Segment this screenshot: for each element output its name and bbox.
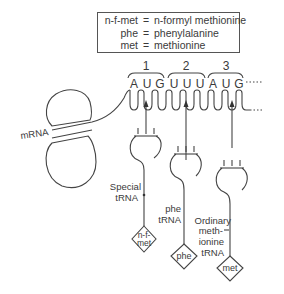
special-trna-label-1: Special — [110, 181, 141, 192]
ribosome-small-subunit — [46, 90, 91, 126]
mrna-label: mRNA — [20, 126, 50, 141]
trna-phe — [170, 146, 201, 244]
ordinary-trna-label-2: meth- — [199, 225, 223, 236]
phe-trna-label-1: phe — [165, 203, 181, 214]
ribosome-large-subunit — [46, 136, 96, 188]
ordinary-trna-label-3: ionine — [199, 236, 224, 247]
special-trna-dot — [143, 194, 146, 197]
aa-label-phe: phe — [176, 251, 191, 261]
codon-3-base-3: G — [234, 77, 243, 91]
translation-diagram: 1 2 3 A U G U U U A U G mRNA Special tRN… — [0, 0, 284, 294]
special-trna-label-2: tRNA — [115, 192, 138, 203]
ordinary-trna-label-4: tRNA — [201, 247, 224, 258]
aa-label-met: met — [222, 263, 238, 273]
codon-1-base-3: G — [155, 77, 164, 91]
arrowhead-3 — [230, 100, 235, 107]
codon-1-base-1: A — [130, 77, 138, 91]
trna-special — [130, 128, 161, 226]
codon-1-base-2: U — [143, 77, 152, 91]
codon-2-base-3: U — [196, 77, 205, 91]
codon-3-base-1: A — [209, 77, 217, 91]
codon-number-1: 1 — [143, 59, 150, 73]
codon-2-base-1: U — [170, 77, 179, 91]
codon-2-base-2: U — [183, 77, 192, 91]
aa-label-nfmet-2: met — [137, 238, 152, 248]
phe-trna-label-2: tRNA — [158, 214, 181, 225]
codon-number-2: 2 — [183, 59, 190, 73]
arrowhead-2 — [184, 100, 189, 107]
codon-number-3: 3 — [223, 59, 230, 73]
codon-3-base-2: U — [222, 77, 231, 91]
